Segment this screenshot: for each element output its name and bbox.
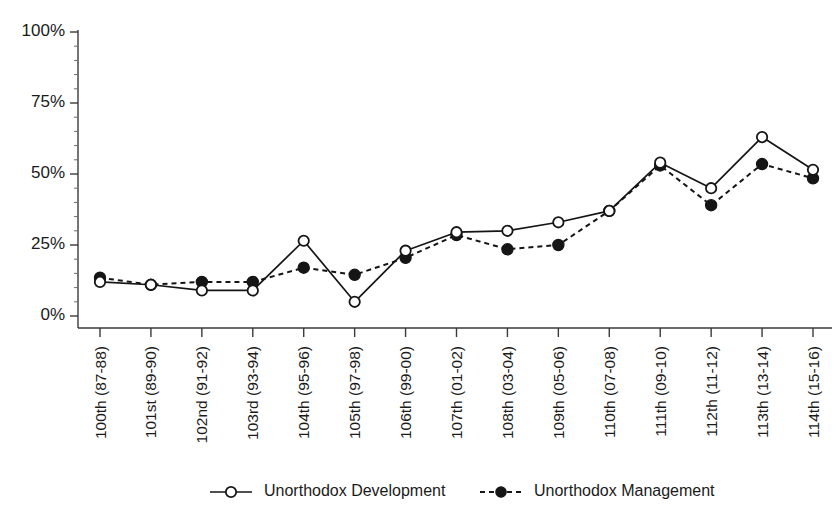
y-tick-label: 75% — [31, 92, 65, 111]
data-point-unorthodox-development — [146, 280, 156, 290]
x-tick-label: 101st (89-90) — [142, 346, 159, 438]
x-tick-label: 111th (09-10) — [652, 346, 669, 437]
legend-marker-open-circle-icon — [226, 487, 236, 497]
x-tick-label: 105th (97-98) — [346, 346, 363, 439]
data-point-unorthodox-development — [757, 132, 767, 142]
data-point-unorthodox-development — [197, 285, 207, 295]
y-tick-label: 100% — [22, 21, 65, 40]
legend-item-unorthodox-management: Unorthodox Management — [480, 482, 715, 499]
x-tick-label: 102nd (91-92) — [193, 346, 210, 443]
y-tick-label: 25% — [31, 234, 65, 253]
y-tick-label: 50% — [31, 163, 65, 182]
x-axis: 100th (87-88)101st (89-90)102nd (91-92)1… — [78, 328, 832, 443]
data-point-unorthodox-management — [502, 244, 513, 255]
series-markers-unorthodox-management — [94, 158, 818, 290]
x-tick-label: 109th (05-06) — [550, 346, 567, 439]
x-tick-label: 107th (01-02) — [448, 346, 465, 439]
chart-container: 0%25%50%75%100% 100th (87-88)101st (89-9… — [0, 0, 840, 523]
data-point-unorthodox-development — [400, 245, 410, 255]
x-tick-label: 114th (15-16) — [805, 346, 822, 438]
x-tick-label: 110th (07-08) — [601, 346, 618, 438]
data-point-unorthodox-management — [756, 158, 767, 169]
data-point-unorthodox-development — [349, 297, 359, 307]
line-chart: 0%25%50%75%100% 100th (87-88)101st (89-9… — [0, 0, 840, 523]
data-point-unorthodox-management — [553, 239, 564, 250]
chart-legend: Unorthodox Development Unorthodox Manage… — [210, 482, 715, 499]
x-tick-label: 106th (99-00) — [397, 346, 414, 439]
x-tick-label: 103rd (93-94) — [244, 346, 261, 440]
plot-area — [94, 132, 818, 307]
data-point-unorthodox-development — [299, 236, 309, 246]
legend-item-unorthodox-development: Unorthodox Development — [210, 482, 446, 499]
x-axis-ticks — [100, 328, 813, 337]
series-line-unorthodox-management — [100, 164, 813, 285]
data-point-unorthodox-development — [553, 217, 563, 227]
x-tick-label: 113th (13-14) — [754, 346, 771, 438]
data-point-unorthodox-management — [349, 269, 360, 280]
legend-marker-filled-circle-icon — [496, 487, 506, 497]
y-axis-tick-labels: 0%25%50%75%100% — [22, 21, 65, 324]
data-point-unorthodox-development — [808, 165, 818, 175]
data-point-unorthodox-development — [95, 277, 105, 287]
data-point-unorthodox-development — [451, 227, 461, 237]
y-tick-label: 0% — [40, 305, 65, 324]
x-tick-label: 112th (11-12) — [703, 346, 720, 437]
legend-label-unorthodox-management: Unorthodox Management — [534, 482, 715, 499]
data-point-unorthodox-management — [706, 200, 717, 211]
x-axis-tick-labels: 100th (87-88)101st (89-90)102nd (91-92)1… — [92, 346, 822, 443]
x-tick-label: 100th (87-88) — [92, 346, 109, 439]
x-tick-label: 108th (03-04) — [499, 346, 516, 439]
data-point-unorthodox-development — [604, 206, 614, 216]
data-point-unorthodox-development — [248, 285, 258, 295]
data-point-unorthodox-development — [706, 183, 716, 193]
data-point-unorthodox-development — [655, 157, 665, 167]
data-point-unorthodox-management — [298, 262, 309, 273]
data-point-unorthodox-development — [502, 226, 512, 236]
x-tick-label: 104th (95-96) — [295, 346, 312, 439]
y-axis: 0%25%50%75%100% — [22, 21, 78, 328]
series-line-unorthodox-development — [100, 137, 813, 302]
legend-label-unorthodox-development: Unorthodox Development — [264, 482, 446, 499]
